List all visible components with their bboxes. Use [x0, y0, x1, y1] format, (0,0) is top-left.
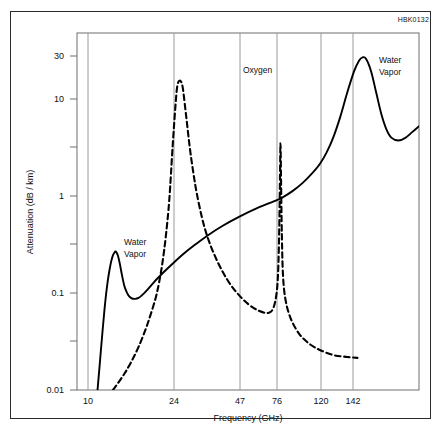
x-tick-label-120: 120: [313, 396, 328, 406]
x-tick-label-10: 10: [83, 396, 93, 406]
annotation-oxygen: Oxygen: [243, 65, 273, 75]
attenuation-vs-frequency-figure: HBK0132 30 10 1 0.1 0.01: [0, 0, 443, 435]
annotation-line-2: Vapor: [124, 249, 146, 259]
y-tick-label-30: 30: [54, 51, 64, 61]
x-tick-label-24: 24: [169, 396, 179, 406]
chart-canvas: 30 10 1 0.1 0.01 Attenuation (dB / km) 1…: [0, 0, 443, 435]
y-axis-ticks: [70, 56, 77, 390]
y-tick-label-1: 1: [59, 191, 64, 201]
x-tick-label-47: 47: [235, 396, 245, 406]
annotation-line-1: Water: [124, 237, 147, 247]
y-tick-label-0.1: 0.1: [51, 288, 64, 298]
x-tick-label-142: 142: [345, 396, 360, 406]
annotation-line-1: Oxygen: [243, 65, 273, 75]
y-tick-label-0.01: 0.01: [46, 385, 64, 395]
annotation-line-1: Water: [379, 55, 402, 65]
y-tick-label-10: 10: [54, 94, 64, 104]
x-axis-title: Frequency (GHz): [213, 413, 282, 423]
annotation-line-2: Vapor: [379, 67, 401, 77]
x-tick-label-76: 76: [272, 396, 282, 406]
y-axis-title: Attenuation (dB / km): [25, 170, 35, 255]
